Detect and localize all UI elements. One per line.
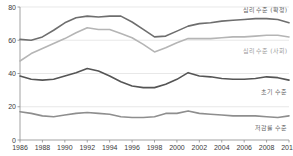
y-tick-label: 60: [8, 37, 16, 44]
y-tick-label: 20: [8, 103, 16, 110]
line-chart: 020406080 198619881990199219941996199820…: [0, 0, 293, 156]
x-tick-label: 1988: [35, 144, 51, 151]
x-tick-label: 2006: [236, 144, 252, 151]
chart-canvas: 020406080 198619881990199219941996199820…: [0, 0, 293, 156]
series-line-1: [20, 28, 289, 61]
y-axis-tick-labels: 020406080: [8, 4, 16, 144]
x-tick-label: 1986: [12, 144, 28, 151]
x-tick-label: 2008: [259, 144, 275, 151]
x-tick-label: 2004: [214, 144, 230, 151]
series-label-0: 심리 수준 (확정): [243, 6, 288, 14]
x-tick-label: 2000: [169, 144, 185, 151]
x-tick-label: 1996: [124, 144, 140, 151]
y-tick-label: 0: [12, 137, 16, 144]
y-tick-label: 40: [8, 70, 16, 77]
gridlines: [20, 7, 289, 107]
x-tick-label: 2002: [192, 144, 208, 151]
x-tick-label: 1998: [147, 144, 163, 151]
series-label-1: 심리 수준 (사회): [243, 47, 288, 55]
x-tick-label: 1990: [57, 144, 73, 151]
series-line-2: [20, 69, 289, 88]
series-lines: [20, 16, 289, 117]
series-label-2: 초기 수준: [261, 88, 287, 96]
series-line-3: [20, 111, 289, 118]
series-label-3: 저감률 수준: [255, 124, 287, 132]
y-tick-label: 80: [8, 4, 16, 11]
x-axis-tick-labels: 1986198819901992199419961998200020022004…: [12, 144, 293, 151]
x-tick-label: 1994: [102, 144, 118, 151]
series-inline-labels: 심리 수준 (확정)심리 수준 (사회)초기 수준저감률 수준: [243, 6, 288, 133]
x-tick-label: 2010: [281, 144, 293, 151]
x-tick-label: 1992: [79, 144, 95, 151]
